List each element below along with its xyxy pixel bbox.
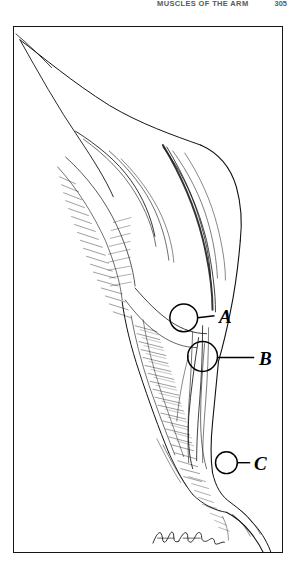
artist-signature (153, 532, 224, 544)
figure-label-b: B (259, 349, 272, 368)
figure-label-c: C (254, 454, 267, 473)
running-header: MUSCLES OF THE ARM 305 (0, 0, 296, 7)
header-title: MUSCLES OF THE ARM (157, 0, 248, 7)
marker-a-circle (170, 304, 198, 332)
marker-a-leader (198, 316, 215, 318)
anatomical-arm-illustration (14, 27, 282, 552)
marker-c-group (215, 452, 250, 474)
figure-frame: A B C (13, 26, 283, 553)
figure-label-a: A (219, 307, 232, 326)
marker-a-group (170, 304, 215, 332)
marker-c-circle (215, 452, 237, 474)
page-number: 305 (274, 0, 287, 7)
